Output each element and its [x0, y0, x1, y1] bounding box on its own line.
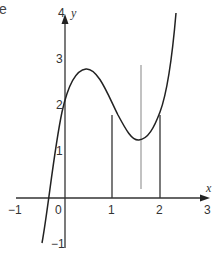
y-tick-neg1: −1	[51, 237, 65, 251]
x-tick-1: 1	[108, 203, 115, 217]
y-tick-2: 2	[56, 98, 63, 112]
y-tick-3: 3	[56, 52, 63, 66]
cropped-text-fragment: e	[0, 1, 7, 17]
cubic-graph: e −1 0 1 2 3 −1 1 2 3 4 y x	[0, 0, 224, 259]
y-tick-4: 4	[58, 6, 65, 20]
y-axis-label: y	[70, 6, 77, 20]
x-axis-label: x	[205, 181, 212, 195]
x-axis-arrow-icon	[200, 195, 210, 202]
x-tick-neg1: −1	[8, 203, 22, 217]
x-tick-2: 2	[156, 203, 163, 217]
x-tick-3: 3	[204, 203, 211, 217]
origin-label: 0	[55, 203, 62, 217]
y-tick-1: 1	[56, 144, 63, 158]
